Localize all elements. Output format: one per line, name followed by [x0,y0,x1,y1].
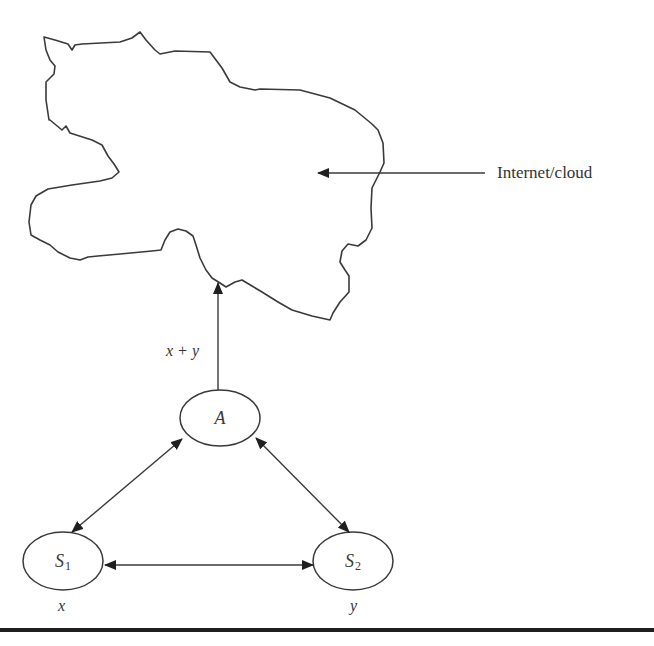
network-diagram [0,0,654,646]
node-s2-label: S2 [333,551,373,576]
internet-cloud-shape [29,32,384,320]
node-s1-name: S [55,551,64,571]
cloud-label: Internet/cloud [497,163,592,183]
s1-load-label: x [58,596,65,616]
node-s1-subscript: 1 [65,559,71,573]
node-s1-label: S1 [43,551,83,576]
node-s2-subscript: 2 [355,559,361,573]
uplink-traffic-label: x + y [166,341,199,361]
edge-a-s1 [72,439,182,532]
node-s2-name: S [345,551,354,571]
s2-load-label: y [350,596,357,616]
node-a-label: A [205,408,235,428]
node-a-name: A [215,408,226,428]
bottom-rule-divider [0,628,654,632]
edge-a-s2 [256,438,349,532]
